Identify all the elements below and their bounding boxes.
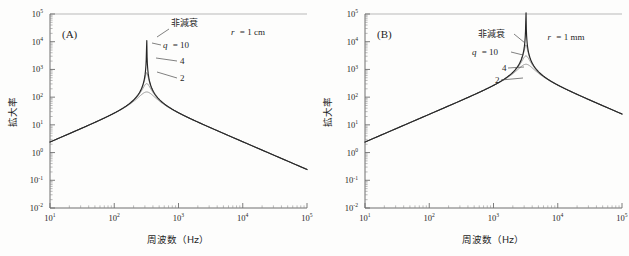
panel-a-condition-var: r <box>231 27 235 37</box>
panel-b-q4-leader <box>508 67 524 68</box>
panel-a-q-label: q = 10 <box>163 40 190 50</box>
svg-text:101: 101 <box>359 212 371 223</box>
svg-text:10-2: 10-2 <box>30 202 43 213</box>
curve-q10 <box>50 73 307 170</box>
panel-b-q-value: = 10 <box>482 47 499 57</box>
panel-b: 10110210310410510510410310210110010-110-… <box>315 0 629 256</box>
svg-text:105: 105 <box>347 8 359 19</box>
panel-a-undamped-label: 非減衰 <box>171 17 198 28</box>
panel-a-q2-leader <box>157 72 177 78</box>
svg-text:103: 103 <box>488 212 500 223</box>
panel-b-ticks <box>365 14 622 208</box>
panel-b-condition: r = 1 mm <box>548 32 585 42</box>
svg-text:103: 103 <box>173 212 185 223</box>
svg-text:10-1: 10-1 <box>30 175 43 186</box>
panel-a-condition-value: = 1 cm <box>240 27 265 37</box>
panel-b-ylabel: 拡大率 <box>322 97 333 127</box>
panel-a-q4-leader <box>156 58 177 61</box>
svg-text:100: 100 <box>32 147 44 158</box>
svg-text:102: 102 <box>347 92 359 103</box>
panel-b-condition-value: = 1 mm <box>556 32 584 42</box>
svg-text:101: 101 <box>32 119 44 130</box>
panel-a-q-symbol: q <box>163 40 168 50</box>
svg-text:101: 101 <box>347 119 359 130</box>
panel-a-plot: 10110210310410510510410310210110010-110-… <box>0 0 314 256</box>
panel-b-frame <box>365 14 622 208</box>
panel-a-condition: r = 1 cm <box>231 27 265 37</box>
svg-text:105: 105 <box>616 212 628 223</box>
svg-text:104: 104 <box>552 212 564 223</box>
svg-text:105: 105 <box>32 8 44 19</box>
plot-axes <box>365 14 622 208</box>
svg-text:10-2: 10-2 <box>345 202 358 213</box>
panel-a-undamped-leader <box>157 29 169 37</box>
svg-text:105: 105 <box>301 212 313 223</box>
panel-b-condition-var: r <box>548 32 552 42</box>
curve-q2 <box>365 64 622 142</box>
svg-text:103: 103 <box>32 64 44 75</box>
svg-text:102: 102 <box>32 92 44 103</box>
panel-b-q10-leader <box>511 52 523 55</box>
panel-b-q2-label: 2 <box>495 75 500 85</box>
svg-text:103: 103 <box>347 64 359 75</box>
curve-undamped <box>50 41 307 170</box>
figure-container: 10110210310410510510410310210110010-110-… <box>0 0 629 256</box>
svg-text:10-1: 10-1 <box>345 175 358 186</box>
panel-a-tick-labels: 10110210310410510510410310210110010-110-… <box>30 8 313 223</box>
svg-text:104: 104 <box>347 36 359 47</box>
panel-a-q10-leader <box>152 43 161 45</box>
panel-a-q2-label: 2 <box>180 73 185 83</box>
panel-b-tick-labels: 10110210310410510510410310210110010-110-… <box>345 8 628 223</box>
panel-b-q4-label: 4 <box>502 63 507 73</box>
panel-b-q-symbol: q <box>472 47 477 57</box>
panel-b-xlabel: 周波数（Hz） <box>462 234 524 245</box>
panel-a-q-value: = 10 <box>173 40 190 50</box>
panel-a-ylabel: 拡大率 <box>7 97 18 127</box>
panel-a-q4-label: 4 <box>180 56 185 66</box>
curve-q10 <box>365 45 622 142</box>
panel-b-plot: 10110210310410510510410310210110010-110-… <box>315 0 629 256</box>
svg-text:102: 102 <box>424 212 436 223</box>
svg-text:102: 102 <box>109 212 121 223</box>
panel-a-tag: (A) <box>62 28 78 41</box>
svg-text:104: 104 <box>237 212 249 223</box>
panel-a-curves <box>50 41 307 170</box>
curve-q4 <box>50 84 307 170</box>
panel-b-undamped-label: 非減衰 <box>478 28 505 39</box>
svg-text:101: 101 <box>44 212 56 223</box>
svg-text:104: 104 <box>32 36 44 47</box>
panel-b-undamped-leader <box>514 34 525 43</box>
panel-a-xlabel: 周波数（Hz） <box>147 234 209 245</box>
panel-a: 10110210310410510510410310210110010-110-… <box>0 0 314 256</box>
panel-b-tag: (B) <box>377 28 392 41</box>
curve-q2 <box>50 92 307 169</box>
svg-text:100: 100 <box>347 147 359 158</box>
panel-b-q-label: q = 10 <box>472 47 499 57</box>
curve-q4 <box>365 56 622 142</box>
